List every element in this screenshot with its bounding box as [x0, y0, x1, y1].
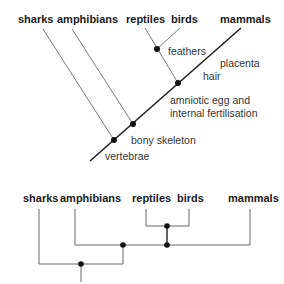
trait-hair: hair — [203, 70, 221, 82]
trait-amniotic-line1: amniotic egg and — [170, 94, 250, 106]
bottom-label-birds: birds — [177, 192, 204, 204]
amphibians-branch-line — [72, 29, 133, 124]
bottom-label-reptiles: reptiles — [132, 192, 171, 204]
node-reptiles-birds — [164, 223, 170, 229]
trait-amniotic-line2: internal fertilisation — [170, 107, 258, 119]
trait-feathers: feathers — [168, 45, 206, 57]
top-label-sharks: sharks — [18, 13, 53, 25]
sharks-branch-line — [43, 29, 114, 140]
mammals-branch — [167, 209, 250, 245]
top-cladogram: sharks amphibians reptiles birds mammals… — [18, 13, 271, 162]
top-label-mammals: mammals — [220, 13, 271, 25]
node-bony-skeleton — [130, 121, 136, 127]
top-label-amphibians: amphibians — [57, 13, 118, 25]
sharks-branch — [39, 209, 123, 264]
top-label-birds: birds — [171, 13, 198, 25]
cladogram-figure: sharks amphibians reptiles birds mammals… — [0, 0, 284, 284]
trait-vertebrae: vertebrae — [105, 150, 150, 162]
node-tetrapods — [120, 242, 126, 248]
bottom-label-mammals: mammals — [228, 192, 279, 204]
node-amniotic-egg — [175, 80, 181, 86]
node-vertebrates — [78, 261, 84, 267]
top-label-reptiles: reptiles — [126, 13, 165, 25]
bottom-label-amphibians: amphibians — [60, 192, 121, 204]
bottom-label-sharks: sharks — [23, 192, 58, 204]
trait-placenta: placenta — [220, 57, 260, 69]
trait-bony-skeleton: bony skeleton — [131, 134, 196, 146]
node-feathers — [154, 46, 160, 52]
bottom-cladogram: sharks amphibians reptiles birds mammals — [23, 192, 279, 282]
node-amniotes — [164, 242, 170, 248]
amphibians-branch — [75, 209, 167, 245]
node-vertebrae — [111, 137, 117, 143]
